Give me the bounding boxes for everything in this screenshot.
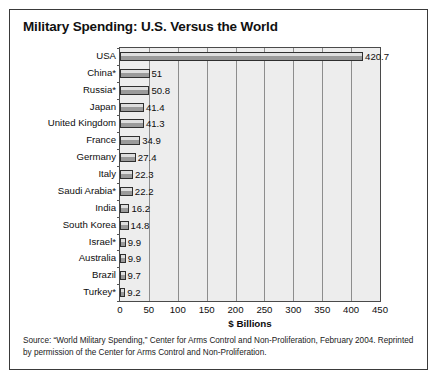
bar-row: 51 bbox=[120, 66, 380, 81]
category-label: Australia bbox=[79, 250, 116, 265]
plot-area: 420.75150.841.441.334.927.422.322.216.21… bbox=[119, 47, 381, 302]
x-tick-label: 350 bbox=[314, 304, 330, 315]
bar-row: 27.4 bbox=[120, 150, 380, 165]
bar-row: 50.8 bbox=[120, 83, 380, 98]
bar-value-label: 27.4 bbox=[138, 150, 157, 165]
category-label: USA bbox=[96, 48, 116, 63]
bar-value-label: 41.4 bbox=[146, 100, 165, 115]
bar-value-label: 9.2 bbox=[127, 285, 140, 300]
bar bbox=[120, 271, 126, 280]
x-tick-label: 0 bbox=[117, 304, 122, 315]
x-tick-label: 400 bbox=[343, 304, 359, 315]
category-label: Brazil bbox=[92, 267, 116, 282]
bar bbox=[120, 254, 126, 263]
category-label: Israel* bbox=[89, 234, 116, 249]
category-label: Russia* bbox=[83, 82, 116, 97]
category-label: Italy bbox=[98, 166, 116, 181]
bar bbox=[120, 136, 140, 145]
bar-row: 16.2 bbox=[120, 201, 380, 216]
x-tick-label: 50 bbox=[144, 304, 155, 315]
bar bbox=[120, 288, 125, 297]
bar bbox=[120, 221, 129, 230]
bar-row: 9.9 bbox=[120, 235, 380, 250]
x-axis-ticks: 050100150200250300350400450 bbox=[119, 302, 381, 318]
x-axis-label: $ Billions bbox=[119, 318, 381, 329]
bar-row: 9.2 bbox=[120, 285, 380, 300]
source-note: Source: “World Military Spending,” Cente… bbox=[23, 335, 415, 358]
bar-value-label: 50.8 bbox=[151, 83, 170, 98]
x-tick-label: 300 bbox=[285, 304, 301, 315]
category-label: Saudi Arabia* bbox=[58, 183, 116, 198]
bar bbox=[120, 187, 133, 196]
category-label: India bbox=[95, 200, 116, 215]
bar-value-label: 9.9 bbox=[128, 235, 141, 250]
bar-value-label: 14.8 bbox=[131, 218, 150, 233]
bar bbox=[120, 119, 144, 128]
bar-row: 420.7 bbox=[120, 49, 380, 64]
bar-value-label: 41.3 bbox=[146, 116, 165, 131]
bar-row: 9.7 bbox=[120, 268, 380, 283]
plot-container: USAChina*Russia*JapanUnited KingdomFranc… bbox=[10, 47, 427, 302]
bar-row: 41.4 bbox=[120, 100, 380, 115]
bar bbox=[120, 86, 149, 95]
chart-figure: Military Spending: U.S. Versus the World… bbox=[9, 9, 428, 370]
bar bbox=[120, 52, 363, 61]
category-label: South Korea bbox=[63, 217, 116, 232]
x-tick-label: 150 bbox=[199, 304, 215, 315]
bar-value-label: 34.9 bbox=[142, 133, 161, 148]
category-label: United Kingdom bbox=[48, 115, 116, 130]
category-label: Turkey* bbox=[83, 284, 116, 299]
bar-value-label: 9.9 bbox=[128, 251, 141, 266]
bar-value-label: 22.3 bbox=[135, 167, 154, 182]
page-title: Military Spending: U.S. Versus the World bbox=[23, 19, 278, 34]
category-label: France bbox=[86, 132, 116, 147]
x-tick-label: 450 bbox=[372, 304, 388, 315]
bar-value-label: 51 bbox=[152, 66, 163, 81]
bar bbox=[120, 204, 129, 213]
bar-value-label: 9.7 bbox=[128, 268, 141, 283]
bar-value-label: 22.2 bbox=[135, 184, 154, 199]
x-tick-label: 250 bbox=[256, 304, 272, 315]
bar bbox=[120, 238, 126, 247]
bar-row: 14.8 bbox=[120, 218, 380, 233]
x-tick-label: 100 bbox=[170, 304, 186, 315]
bar-row: 22.3 bbox=[120, 167, 380, 182]
category-axis: USAChina*Russia*JapanUnited KingdomFranc… bbox=[10, 47, 119, 300]
bar bbox=[120, 170, 133, 179]
bar-value-label: 420.7 bbox=[365, 49, 389, 64]
bar bbox=[120, 69, 150, 78]
bar-row: 9.9 bbox=[120, 251, 380, 266]
bar bbox=[120, 103, 144, 112]
category-label: China* bbox=[87, 65, 116, 80]
x-tick-label: 200 bbox=[228, 304, 244, 315]
bar-row: 34.9 bbox=[120, 133, 380, 148]
bar bbox=[120, 153, 136, 162]
bar-value-label: 16.2 bbox=[131, 201, 150, 216]
category-label: Germany bbox=[77, 149, 116, 164]
category-label: Japan bbox=[90, 99, 116, 114]
bar-row: 41.3 bbox=[120, 116, 380, 131]
bar-row: 22.2 bbox=[120, 184, 380, 199]
